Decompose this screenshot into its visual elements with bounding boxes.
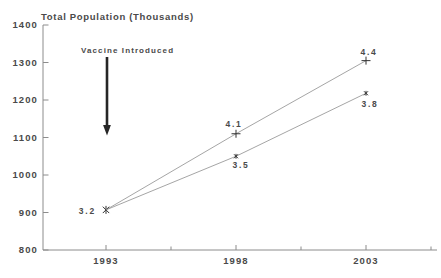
point-label: 4.4 [360, 47, 377, 57]
point-label: 3.2 [79, 206, 96, 216]
y-tick-label: 1100 [13, 132, 38, 143]
annotation-label: Vaccine Introduced [81, 46, 174, 55]
vaccine-arrow [103, 57, 111, 136]
axis-lines [43, 25, 437, 250]
y-tick-label: 1200 [12, 94, 38, 105]
y-tick-label: 1300 [12, 57, 38, 68]
x-tick-label: 1993 [93, 255, 119, 266]
point-label: 4.1 [225, 119, 242, 129]
arrow-head-icon [103, 125, 111, 136]
point-label: 3.8 [361, 99, 378, 109]
y-tick-label: 900 [19, 207, 38, 218]
series-line-lower-line [106, 93, 366, 210]
chart-title: Total Population (Thousands) [41, 11, 194, 22]
scanned-line-chart: Total Population (Thousands) Vaccine Int… [0, 0, 441, 278]
y-tick-label: 1400 [12, 19, 38, 30]
line-chart-canvas: Total Population (Thousands) Vaccine Int… [0, 0, 441, 278]
series-lines [103, 57, 371, 214]
x-tick-label: 2003 [353, 255, 379, 266]
y-tick-label: 1000 [12, 169, 38, 180]
y-tick-label: 800 [19, 244, 38, 255]
point-labels: 3.24.14.43.53.8 [79, 47, 379, 216]
point-label: 3.5 [232, 160, 249, 170]
x-tick-label: 1998 [223, 255, 249, 266]
